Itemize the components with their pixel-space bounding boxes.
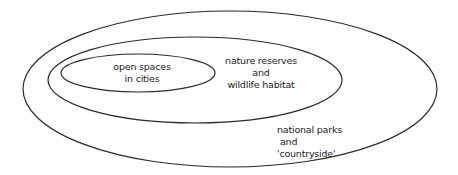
- label-line: 'countryside': [277, 148, 342, 160]
- label-line: in cities: [92, 73, 192, 85]
- nested-sets-diagram: open spaces in cities nature reserves an…: [0, 0, 458, 175]
- label-line: wildlife habitat: [216, 79, 306, 91]
- label-line: and: [216, 67, 306, 79]
- label-line: national parks: [277, 124, 342, 136]
- label-line: nature reserves: [216, 55, 306, 67]
- outer-set-label: national parks and 'countryside': [277, 124, 342, 160]
- inner-set-label: open spaces in cities: [92, 61, 192, 85]
- middle-set-label: nature reserves and wildlife habitat: [216, 55, 306, 91]
- label-line: and: [277, 136, 342, 148]
- label-line: open spaces: [92, 61, 192, 73]
